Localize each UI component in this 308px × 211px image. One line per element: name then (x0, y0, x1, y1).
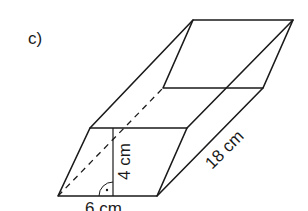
right-angle-dot (106, 189, 108, 191)
height-label: 4 cm (115, 143, 134, 180)
lateral-edge-top-left (90, 20, 193, 128)
subfigure-label: c) (28, 29, 42, 48)
prism-figure: c) 4 cm 6 cm 18 cm (0, 0, 308, 211)
hidden-lateral-edge (58, 88, 163, 196)
length-label: 18 cm (201, 127, 247, 173)
prism-diagram: c) 4 cm 6 cm 18 cm (0, 0, 308, 211)
right-angle-arc (99, 182, 113, 196)
base-label: 6 cm (85, 199, 122, 211)
